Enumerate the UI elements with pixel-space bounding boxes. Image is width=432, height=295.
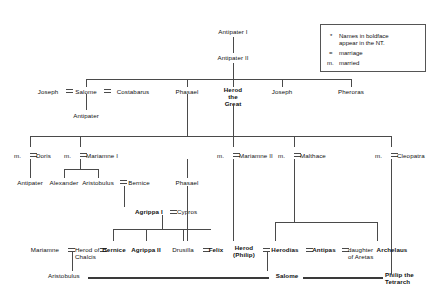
- herodian-family-tree: * Names in boldface appear in the NT. = …: [0, 0, 432, 295]
- person-aristobulus-g7: Aristobulus: [48, 272, 80, 279]
- person-herod-of-chalcis: Herod of Chalcis: [75, 246, 100, 260]
- rail-agrippa-children: [113, 229, 211, 230]
- line-gen2-down: [233, 63, 234, 79]
- person-antipater-g3b: Antipater: [73, 112, 99, 119]
- rail-mariamne-i-children: [64, 169, 98, 170]
- person-costabarus: Costabarus: [117, 88, 150, 95]
- drop-alexander: [64, 169, 65, 178]
- person-joseph-g3: Joseph: [38, 88, 59, 95]
- line-mariamne-ii-child: [187, 159, 188, 178]
- person-antipas: Antipas: [312, 246, 335, 253]
- drop-agrippa-ii: [146, 229, 147, 241]
- drop-mariamne-ii: [233, 136, 234, 147]
- line-gen1-gen2: [233, 37, 234, 53]
- line-mariamne-ii-trunk: [233, 159, 234, 241]
- person-mariamne-g6: Mariamne: [31, 246, 59, 253]
- label-married-malthace: m.: [278, 152, 285, 159]
- person-pheroras: Pheroras: [338, 88, 364, 95]
- rail-bottom-left: [88, 277, 269, 279]
- person-antipater-ii: Antipater II: [217, 54, 248, 61]
- person-drusilla: Drusilla: [172, 246, 193, 253]
- drop-joseph-g3: [282, 79, 283, 87]
- person-daughter-of-aretas: daughter of Aretas: [348, 246, 373, 260]
- person-antipater-i: Antipater I: [218, 28, 247, 35]
- label-married-mariamne-i: m.: [64, 152, 71, 159]
- legend-box: [320, 24, 426, 72]
- person-malthace: Malthace: [300, 152, 326, 159]
- legend-married-symbol: m.: [327, 60, 334, 67]
- person-bernice-g4: Bernice: [128, 179, 150, 186]
- person-salome-g7: Salome: [276, 272, 299, 279]
- person-alexander: Alexander: [50, 179, 79, 186]
- drop-cleopatra: [391, 136, 392, 147]
- person-herod-philip: Herod (Philip): [233, 244, 255, 258]
- marriage-salome-costabarus: [104, 89, 111, 93]
- label-married-doris: m.: [14, 152, 21, 159]
- legend-marriage-symbol: =: [329, 50, 333, 57]
- line-chalcis-child: [72, 252, 73, 271]
- person-archelaus: Archelaus: [377, 246, 408, 253]
- person-felix: Felix: [209, 246, 224, 253]
- line-herod-trunk: [233, 104, 234, 136]
- drop-malthace: [294, 136, 295, 147]
- line-malthace-trunk: [294, 159, 295, 222]
- marriage-joseph-salome: [66, 89, 73, 93]
- drop-archelaus: [377, 222, 378, 241]
- rail-malthace-children: [275, 222, 377, 223]
- drop-phasael-g3: [187, 79, 188, 87]
- line-phasael-g4-trunk: [187, 186, 188, 241]
- drop-doris: [30, 136, 31, 147]
- person-agrippa-ii: Agrippa II: [131, 246, 161, 253]
- legend-marriage-label: marriage: [339, 50, 363, 57]
- label-married-mariamne-ii: m.: [217, 152, 224, 159]
- person-antipater-g4: Antipater: [17, 179, 43, 186]
- person-philip-the-tetrarch: Philip the Tetrarch: [385, 271, 414, 285]
- line-phasael-g3-trunk: [187, 94, 188, 136]
- person-agrippa-i: Agrippa I: [135, 208, 163, 215]
- person-doris: Doris: [36, 152, 51, 159]
- drop-mariamne-i: [80, 136, 81, 147]
- person-mariamne-ii: Mariamne II: [239, 152, 273, 159]
- drop-salome: [86, 79, 87, 87]
- line-joseph-salome-child: [86, 94, 87, 110]
- rail-gen3: [86, 79, 351, 80]
- drop-pheroras: [351, 79, 352, 87]
- person-herodias: Herodias: [271, 246, 298, 253]
- person-joseph-g3b: Joseph: [272, 88, 293, 95]
- marriage-herodphilip-herodias: [263, 248, 270, 252]
- line-doris-child: [30, 159, 31, 178]
- rail-wives: [30, 136, 391, 137]
- label-married-cleopatra: m.: [375, 152, 382, 159]
- line-cleopatra-trunk: [391, 159, 392, 274]
- marriage-aristobulus-bernice: [120, 180, 127, 184]
- line-aristobulus-bernice-child: [124, 186, 125, 207]
- marriage-mariamne-herodchalcis: [68, 248, 75, 252]
- person-cleopatra: Cleopatra: [397, 152, 425, 159]
- rail-bottom-right: [303, 277, 383, 279]
- drop-drusilla: [183, 229, 184, 241]
- person-mariamne-i: Mariamne I: [86, 152, 118, 159]
- legend-note: Names in boldface appear in the NT.: [339, 33, 389, 48]
- line-agrippa-down: [162, 215, 163, 229]
- person-bernice-g6: Bernice: [102, 246, 125, 253]
- drop-aristobulus-g4: [98, 169, 99, 178]
- marriage-agrippa-cypros: [170, 210, 177, 214]
- line-mariamne-i-down: [80, 159, 81, 169]
- legend-star-icon: *: [330, 33, 332, 39]
- legend-married-label: married: [339, 60, 359, 67]
- person-aristobulus-g4: Aristobulus: [82, 179, 114, 186]
- drop-bernice-g6: [113, 229, 114, 241]
- line-herodphilip-child: [267, 252, 268, 271]
- drop-antipas: [275, 222, 276, 241]
